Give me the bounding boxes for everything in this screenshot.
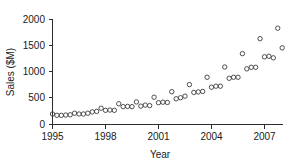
y-tick-label: 1500 <box>23 40 46 51</box>
data-point <box>152 95 156 99</box>
data-point <box>64 113 68 117</box>
data-point <box>236 75 240 79</box>
x-tick-label: 2007 <box>253 131 276 142</box>
data-point <box>253 65 257 69</box>
data-point-group <box>50 26 284 118</box>
data-point <box>121 104 125 108</box>
data-point <box>249 65 253 69</box>
data-point <box>170 89 174 93</box>
data-point <box>227 76 231 80</box>
data-point <box>156 101 160 105</box>
data-point <box>147 103 151 107</box>
data-point <box>134 100 138 104</box>
data-point <box>200 89 204 93</box>
data-point <box>240 51 244 55</box>
data-point <box>68 113 72 117</box>
data-point <box>161 100 165 104</box>
data-point <box>55 113 59 117</box>
data-point <box>86 111 90 115</box>
data-point <box>245 67 249 71</box>
x-tick-label: 1998 <box>94 131 117 142</box>
data-point <box>103 108 107 112</box>
data-point <box>231 75 235 79</box>
data-point <box>192 90 196 94</box>
data-point <box>117 102 121 106</box>
x-axis-tick-labels: 1995 1998 2001 2004 2007 <box>41 131 276 142</box>
y-tick-label: 2000 <box>23 14 46 25</box>
data-point <box>77 112 81 116</box>
data-point <box>178 96 182 100</box>
scatter-plot: 2000 1500 1000 500 0 1995 1998 2001 2004… <box>0 0 286 165</box>
data-point <box>94 109 98 113</box>
data-point <box>125 104 129 108</box>
data-point <box>59 113 63 117</box>
y-axis-tick-labels: 2000 1500 1000 500 0 <box>23 14 46 130</box>
data-point <box>139 104 143 108</box>
data-point <box>112 108 116 112</box>
data-point <box>218 84 222 88</box>
data-point <box>276 26 280 30</box>
data-point <box>280 46 284 50</box>
x-axis-ticks <box>53 125 265 130</box>
data-point <box>90 110 94 114</box>
x-tick-label: 2001 <box>147 131 170 142</box>
data-point <box>99 106 103 110</box>
data-point <box>258 36 262 40</box>
data-point <box>165 100 169 104</box>
data-point <box>108 108 112 112</box>
x-tick-label: 1995 <box>41 131 64 142</box>
data-point <box>262 55 266 59</box>
data-point <box>174 97 178 101</box>
data-point <box>267 54 271 58</box>
x-tick-label: 2004 <box>200 131 223 142</box>
data-point <box>271 56 275 60</box>
data-point <box>183 94 187 98</box>
data-point <box>81 112 85 116</box>
y-tick-label: 500 <box>28 92 45 103</box>
data-point <box>72 111 76 115</box>
y-axis-ticks <box>49 20 53 125</box>
data-point <box>196 90 200 94</box>
y-tick-label: 0 <box>39 119 45 130</box>
y-axis-title: Sales ($M) <box>5 48 16 96</box>
chart-container: 2000 1500 1000 500 0 1995 1998 2001 2004… <box>0 0 286 165</box>
data-point <box>143 103 147 107</box>
data-point <box>214 84 218 88</box>
data-point <box>205 75 209 79</box>
data-point <box>223 65 227 69</box>
data-point <box>187 82 191 86</box>
y-tick-label: 1000 <box>23 66 46 77</box>
x-axis-title: Year <box>150 149 171 160</box>
data-point <box>130 104 134 108</box>
data-point <box>209 85 213 89</box>
